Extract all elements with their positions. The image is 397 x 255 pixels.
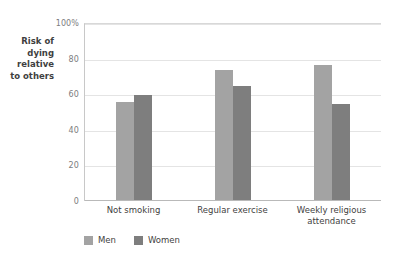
bar-pair: [184, 24, 283, 200]
bar-pair: [85, 24, 184, 200]
y-tick-label: 40: [39, 125, 79, 134]
bar-men[interactable]: [116, 102, 134, 200]
bar-men[interactable]: [314, 65, 332, 200]
legend-swatch-women-icon: [134, 236, 143, 245]
x-tick-label: Not smoking: [84, 205, 183, 226]
legend-item-men[interactable]: Men: [84, 235, 116, 245]
bar-chart: Risk of dying relative to others 100%806…: [0, 0, 397, 255]
y-tick-label: 60: [39, 90, 79, 99]
bar-groups: [85, 24, 381, 200]
bar-group: [85, 24, 184, 200]
x-axis-labels: Not smokingRegular exerciseWeekly religi…: [84, 205, 381, 226]
y-tick-label: 100%: [39, 19, 79, 28]
x-axis-line: [85, 200, 381, 201]
y-tick-label: 20: [39, 161, 79, 170]
legend-swatch-men-icon: [84, 236, 93, 245]
bar-group: [184, 24, 283, 200]
legend-label-women: Women: [148, 235, 180, 245]
bar-group: [282, 24, 381, 200]
legend-label-men: Men: [98, 235, 116, 245]
legend-item-women[interactable]: Women: [134, 235, 180, 245]
bar-women[interactable]: [134, 95, 152, 200]
plot-area: [84, 23, 381, 201]
y-tick-label: 80: [39, 54, 79, 63]
bar-pair: [282, 24, 381, 200]
bar-women[interactable]: [332, 104, 350, 200]
x-tick-label: Regular exercise: [183, 205, 282, 226]
bar-men[interactable]: [215, 70, 233, 200]
legend: Men Women: [84, 235, 180, 245]
x-tick-label: Weekly religious attendance: [282, 205, 381, 226]
bar-women[interactable]: [233, 86, 251, 200]
y-tick-label: 0: [39, 197, 79, 206]
